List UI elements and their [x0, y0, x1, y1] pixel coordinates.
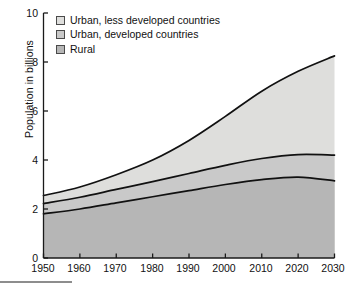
- chart-figure: Population in billions 10 8 6 4 2 0 1950…: [0, 0, 351, 287]
- legend-item-label: Urban, less developed countries: [70, 15, 220, 26]
- legend-item-urban-developed: Urban, developed countries: [56, 28, 286, 43]
- legend-swatch-icon: [56, 16, 65, 25]
- area-bands: [44, 56, 335, 258]
- legend-swatch-icon: [56, 45, 65, 54]
- footer-divider: [0, 281, 72, 283]
- legend-swatch-icon: [56, 30, 65, 39]
- legend-item-label: Urban, developed countries: [70, 29, 198, 40]
- legend-item-label: Rural: [70, 44, 95, 55]
- legend-item-rural: Rural: [56, 42, 286, 57]
- chart-legend: Urban, less developed countries Urban, d…: [56, 13, 286, 57]
- legend-item-urban-less-developed: Urban, less developed countries: [56, 13, 286, 28]
